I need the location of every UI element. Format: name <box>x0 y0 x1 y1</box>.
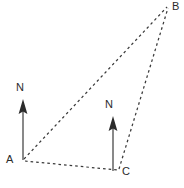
vertex-label-c: C <box>122 166 130 177</box>
vertex-label-b: B <box>172 1 179 12</box>
vertex-label-a: A <box>6 154 13 165</box>
edge-a-c-dashed-line <box>25 161 117 170</box>
north-arrow-c <box>109 116 118 171</box>
north-label-c: N <box>105 99 113 110</box>
diagram-canvas <box>0 0 184 188</box>
north-label-a: N <box>16 82 24 93</box>
north-arrow-a <box>19 99 28 160</box>
bearings-diagram: A B C N N <box>0 0 184 188</box>
